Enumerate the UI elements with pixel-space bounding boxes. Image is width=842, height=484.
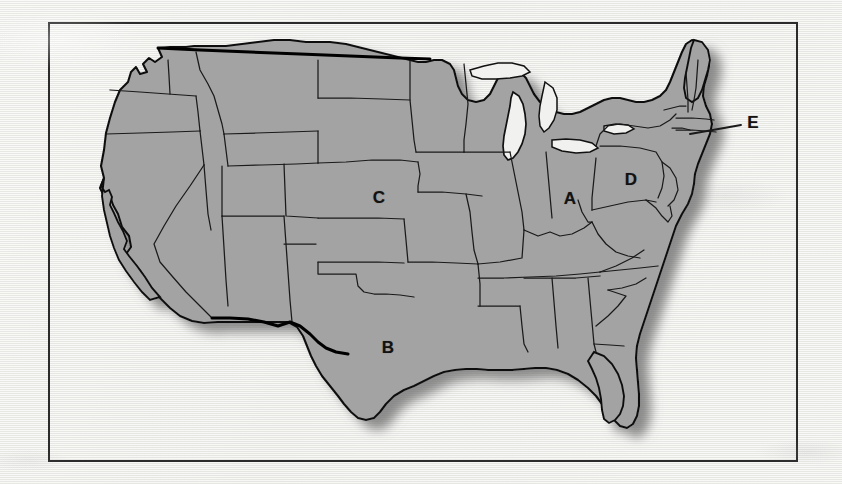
map-label-c: C [373, 189, 385, 206]
figure-frame-border [48, 22, 798, 462]
map-label-a: A [564, 190, 576, 207]
map-label-b: B [382, 339, 394, 356]
map-label-e: E [747, 114, 759, 131]
map-label-d: D [625, 171, 637, 188]
scanned-page: A B C D E [0, 0, 842, 484]
